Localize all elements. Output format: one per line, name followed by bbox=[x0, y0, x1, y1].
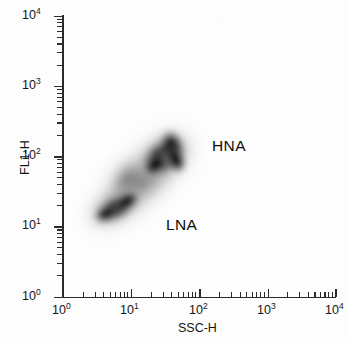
y-minor-tick bbox=[57, 107, 62, 108]
x-minor-tick bbox=[151, 292, 152, 297]
x-major-tick bbox=[199, 289, 201, 297]
y-axis-line bbox=[62, 15, 64, 298]
y-axis-title: FL1-H bbox=[18, 140, 32, 175]
x-ticklabel-mantissa: 10 bbox=[257, 303, 271, 317]
y-ticklabel-exponent: 0 bbox=[36, 287, 41, 297]
y-minor-tick bbox=[57, 65, 62, 66]
x-ticklabel-10e3: 103 bbox=[257, 303, 276, 317]
x-minor-tick bbox=[219, 292, 220, 297]
y-minor-tick bbox=[57, 97, 62, 98]
x-ticklabel-mantissa: 10 bbox=[189, 303, 203, 317]
x-minor-tick bbox=[192, 292, 193, 297]
x-minor-tick bbox=[252, 292, 253, 297]
y-ticklabel-exponent: 2 bbox=[36, 146, 41, 156]
y-ticklabel-10e3: 103 bbox=[22, 78, 41, 92]
y-minor-tick bbox=[57, 254, 62, 255]
x-minor-tick bbox=[246, 292, 247, 297]
y-major-tick bbox=[54, 86, 62, 88]
y-minor-tick bbox=[57, 52, 62, 53]
y-ticklabel-mantissa: 10 bbox=[22, 218, 36, 232]
y-minor-tick bbox=[57, 167, 62, 168]
x-major-tick bbox=[131, 289, 133, 297]
y-minor-tick bbox=[57, 135, 62, 136]
y-minor-tick bbox=[57, 237, 62, 238]
x-minor-tick bbox=[188, 292, 189, 297]
y-minor-tick bbox=[57, 89, 62, 90]
x-minor-tick bbox=[95, 292, 96, 297]
lna-population-label: LNA bbox=[166, 216, 197, 234]
y-ticklabel-mantissa: 10 bbox=[22, 289, 36, 303]
y-ticklabel-10e1: 101 bbox=[22, 218, 41, 232]
x-ticklabel-10e1: 101 bbox=[120, 303, 139, 317]
x-axis-title: SSC-H bbox=[178, 321, 217, 335]
x-ticklabel-10e2: 102 bbox=[189, 303, 208, 317]
x-ticklabel-exponent: 1 bbox=[134, 301, 139, 311]
x-minor-tick bbox=[260, 292, 261, 297]
y-major-tick bbox=[54, 16, 62, 18]
y-major-tick bbox=[54, 226, 62, 228]
y-minor-tick bbox=[57, 22, 62, 23]
density-cloud bbox=[0, 0, 350, 343]
x-minor-tick bbox=[240, 292, 241, 297]
x-minor-tick bbox=[231, 292, 232, 297]
y-minor-tick bbox=[57, 233, 62, 234]
x-major-tick bbox=[62, 289, 64, 297]
y-minor-tick bbox=[57, 247, 62, 248]
x-minor-tick bbox=[171, 292, 172, 297]
y-minor-tick bbox=[57, 26, 62, 27]
x-ticklabel-exponent: 0 bbox=[66, 301, 71, 311]
y-minor-tick bbox=[57, 37, 62, 38]
y-major-tick bbox=[54, 156, 62, 158]
y-minor-tick bbox=[57, 177, 62, 178]
y-ticklabel-10e4: 104 bbox=[22, 8, 41, 22]
x-minor-tick bbox=[127, 292, 128, 297]
y-major-tick bbox=[54, 297, 62, 299]
x-minor-tick bbox=[195, 292, 196, 297]
x-minor-tick bbox=[103, 292, 104, 297]
x-minor-tick bbox=[115, 292, 116, 297]
x-ticklabel-exponent: 4 bbox=[339, 301, 344, 311]
x-minor-tick bbox=[324, 292, 325, 297]
y-minor-tick bbox=[57, 242, 62, 243]
y-minor-tick bbox=[57, 275, 62, 276]
x-minor-tick bbox=[299, 292, 300, 297]
x-ticklabel-mantissa: 10 bbox=[52, 303, 66, 317]
y-minor-tick bbox=[57, 193, 62, 194]
y-minor-tick bbox=[57, 163, 62, 164]
y-ticklabel-exponent: 4 bbox=[36, 6, 41, 16]
x-ticklabel-10e0: 100 bbox=[52, 303, 71, 317]
y-minor-tick bbox=[57, 172, 62, 173]
y-minor-tick bbox=[57, 114, 62, 115]
y-minor-tick bbox=[57, 93, 62, 94]
x-minor-tick bbox=[163, 292, 164, 297]
y-minor-tick bbox=[57, 184, 62, 185]
x-ticklabel-exponent: 2 bbox=[203, 301, 208, 311]
x-ticklabel-mantissa: 10 bbox=[325, 303, 339, 317]
x-minor-tick bbox=[320, 292, 321, 297]
x-minor-tick bbox=[308, 292, 309, 297]
x-minor-tick bbox=[328, 292, 329, 297]
hna-population-label: HNA bbox=[212, 137, 246, 155]
x-major-tick bbox=[268, 289, 270, 297]
x-minor-tick bbox=[110, 292, 111, 297]
y-minor-tick bbox=[57, 263, 62, 264]
y-ticklabel-exponent: 3 bbox=[36, 76, 41, 86]
y-minor-tick bbox=[57, 122, 62, 123]
x-minor-tick bbox=[314, 292, 315, 297]
cytogram-figure: 104 103 102 101 100 100 101 102 103 104 … bbox=[0, 0, 350, 343]
x-minor-tick bbox=[120, 292, 121, 297]
x-major-tick bbox=[335, 289, 337, 297]
x-ticklabel-10e4: 104 bbox=[325, 303, 344, 317]
x-minor-tick bbox=[178, 292, 179, 297]
x-minor-tick bbox=[183, 292, 184, 297]
x-minor-tick bbox=[332, 292, 333, 297]
y-ticklabel-exponent: 1 bbox=[36, 216, 41, 226]
y-minor-tick bbox=[57, 159, 62, 160]
y-ticklabel-mantissa: 10 bbox=[22, 78, 36, 92]
y-ticklabel-10e0: 100 bbox=[22, 289, 41, 303]
x-minor-tick bbox=[287, 292, 288, 297]
y-minor-tick bbox=[57, 43, 62, 44]
y-minor-tick bbox=[57, 19, 62, 20]
x-minor-tick bbox=[264, 292, 265, 297]
y-minor-tick bbox=[57, 31, 62, 32]
